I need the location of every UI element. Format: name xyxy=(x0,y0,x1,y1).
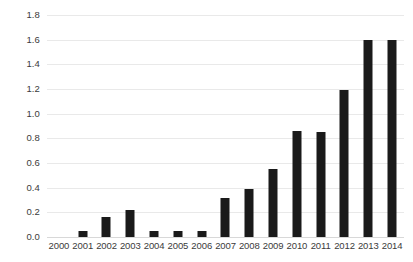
bar-slot-2002 xyxy=(95,15,119,237)
x-axis-label-2006: 2006 xyxy=(190,241,214,251)
y-axis-label-1.6: 1.6 xyxy=(6,35,40,45)
x-axis-label-2007: 2007 xyxy=(214,241,238,251)
bar-slot-2008 xyxy=(237,15,261,237)
x-axis-label-2011: 2011 xyxy=(309,241,333,251)
x-axis-label-2002: 2002 xyxy=(95,241,119,251)
bar-2009 xyxy=(269,169,278,237)
bar-2004 xyxy=(150,231,159,237)
bar-2002 xyxy=(102,217,111,237)
bar-2008 xyxy=(245,189,254,237)
y-axis-label-0.4: 0.4 xyxy=(6,183,40,193)
bar-slot-2009 xyxy=(261,15,285,237)
bar-slot-2011 xyxy=(309,15,333,237)
y-axis-label-0.8: 0.8 xyxy=(6,133,40,143)
x-axis-label-2009: 2009 xyxy=(261,241,285,251)
bar-slot-2006 xyxy=(190,15,214,237)
x-axis-label-2004: 2004 xyxy=(142,241,166,251)
x-axis-label-2013: 2013 xyxy=(356,241,380,251)
x-axis-label-2000: 2000 xyxy=(47,241,71,251)
bar-2013 xyxy=(364,40,373,237)
bar-chart: 0.00.20.40.60.81.01.21.41.61.82000200120… xyxy=(0,0,413,262)
y-axis-label-0.6: 0.6 xyxy=(6,158,40,168)
y-axis-label-1.4: 1.4 xyxy=(6,59,40,69)
y-axis-label-1.0: 1.0 xyxy=(6,109,40,119)
y-axis-label-0.0: 0.0 xyxy=(6,232,40,242)
bar-slot-2003 xyxy=(118,15,142,237)
bar-slot-2013 xyxy=(356,15,380,237)
bar-2003 xyxy=(126,210,135,237)
x-axis-label-2001: 2001 xyxy=(71,241,95,251)
y-axis-label-1.2: 1.2 xyxy=(6,84,40,94)
bar-slot-2001 xyxy=(71,15,95,237)
bar-2006 xyxy=(197,231,206,237)
x-axis-label-2005: 2005 xyxy=(166,241,190,251)
x-axis-label-2012: 2012 xyxy=(333,241,357,251)
bar-slot-2007 xyxy=(214,15,238,237)
bar-2010 xyxy=(292,131,301,237)
bar-2014 xyxy=(388,40,397,237)
x-axis-label-2014: 2014 xyxy=(380,241,404,251)
bar-slot-2004 xyxy=(142,15,166,237)
x-axis-label-2008: 2008 xyxy=(237,241,261,251)
y-axis-label-0.2: 0.2 xyxy=(6,207,40,217)
bar-2005 xyxy=(173,231,182,237)
plot-area xyxy=(47,15,404,237)
bar-slot-2000 xyxy=(47,15,71,237)
bar-slot-2012 xyxy=(333,15,357,237)
x-axis-label-2010: 2010 xyxy=(285,241,309,251)
bar-slot-2010 xyxy=(285,15,309,237)
bar-2001 xyxy=(78,231,87,237)
bar-2007 xyxy=(221,198,230,237)
x-axis-label-2003: 2003 xyxy=(118,241,142,251)
bar-slot-2014 xyxy=(380,15,404,237)
bar-2012 xyxy=(340,90,349,237)
bar-slot-2005 xyxy=(166,15,190,237)
bar-2011 xyxy=(316,132,325,237)
gridline-0.0 xyxy=(47,237,404,238)
y-axis-label-1.8: 1.8 xyxy=(6,10,40,20)
bars-layer xyxy=(47,15,404,237)
